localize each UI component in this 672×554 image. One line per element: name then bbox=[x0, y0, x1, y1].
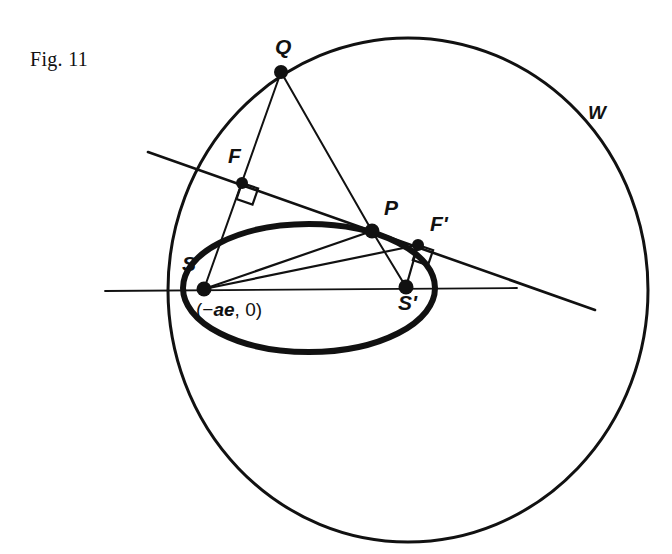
point-dot-q bbox=[274, 65, 288, 79]
point-label-f: F bbox=[228, 145, 241, 166]
point-dot-f-prime bbox=[412, 239, 424, 251]
focus-coordinate-label: (−ae, 0) bbox=[196, 300, 262, 319]
point-label-f-prime: F' bbox=[430, 213, 448, 234]
point-dot-f bbox=[236, 177, 248, 189]
figure-caption: Fig. 11 bbox=[30, 48, 88, 71]
geometry-diagram bbox=[0, 0, 672, 554]
coord-variable: ae bbox=[213, 299, 234, 320]
circle-name-label: W bbox=[588, 103, 606, 122]
point-label-q: Q bbox=[275, 36, 291, 57]
point-label-p: P bbox=[384, 197, 398, 218]
coord-prefix: (− bbox=[196, 299, 213, 320]
point-label-s: S bbox=[182, 253, 196, 274]
coord-suffix: , 0) bbox=[235, 299, 262, 320]
segment-q-to-p bbox=[281, 72, 372, 231]
figure-container: Fig. 11 Q F P F' S S' (−ae, 0) W bbox=[0, 0, 672, 554]
point-label-s-prime: S' bbox=[398, 292, 417, 313]
point-dot-p bbox=[365, 224, 380, 239]
point-dot-s bbox=[197, 282, 212, 297]
